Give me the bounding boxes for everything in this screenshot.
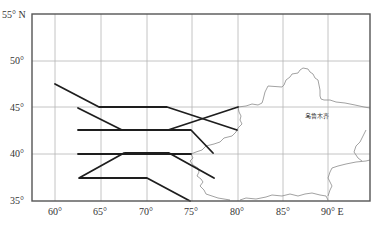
lon-tick-75: 75° <box>184 206 198 217</box>
lat-tick-35: 35° <box>10 195 24 206</box>
lat-axis: 55° N 50° 45° 40° 35° <box>2 9 26 206</box>
country-border <box>190 68 370 200</box>
lon-tick-70: 70° <box>139 206 153 217</box>
lon-tick-85: 85° <box>276 206 290 217</box>
lon-tick-90: 90° E <box>321 206 344 217</box>
track-line-2 <box>78 107 238 130</box>
lat-tick-50: 50° <box>10 55 24 66</box>
lon-axis: 60° 65° 70° 75° 80° 85° 90° E <box>48 206 344 217</box>
lon-tick-80: 80° <box>230 206 244 217</box>
graticule <box>32 14 370 201</box>
track-line-5 <box>125 153 214 178</box>
lon-tick-65: 65° <box>93 206 107 217</box>
track-line-6 <box>79 153 190 201</box>
lat-tick-40: 40° <box>10 148 24 159</box>
map-canvas: 乌鲁木齐 55° N 50° 45° 40° 35° 60° 65° 70° 7… <box>0 0 378 232</box>
map-frame <box>32 14 370 201</box>
track-line-3 <box>78 130 213 153</box>
lon-tick-60: 60° <box>48 206 62 217</box>
track-lines <box>55 84 238 201</box>
lat-tick-55: 55° N <box>2 9 26 20</box>
city-label-urumqi: 乌鲁木齐 <box>305 112 329 120</box>
lat-tick-45: 45° <box>10 102 24 113</box>
